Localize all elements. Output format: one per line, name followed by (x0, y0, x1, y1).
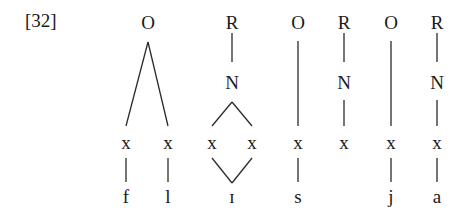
nucleus-node-1: N (225, 73, 239, 92)
segment-f: f (123, 187, 129, 206)
skeletal-slot-8: x (432, 133, 442, 152)
onset-node-1: O (141, 13, 155, 32)
skeletal-slot-4: x (247, 133, 257, 152)
skeletal-slot-7: x (386, 133, 396, 152)
nucleus-node-2: N (337, 73, 351, 92)
skeletal-slot-1: x (121, 133, 131, 152)
branch-o1-x2 (148, 42, 168, 126)
skeletal-slot-5: x (293, 133, 303, 152)
skeletal-slot-6: x (339, 133, 349, 152)
branch-n1-x4 (232, 102, 252, 126)
segment-long-vowel: ɪ (229, 187, 234, 206)
nucleus-node-3: N (430, 73, 444, 92)
segment-l: l (165, 187, 170, 206)
skeletal-slot-3: x (207, 133, 217, 152)
rhyme-node-3: R (431, 13, 444, 32)
branch-x4-seg (232, 158, 252, 183)
rhyme-node-2: R (338, 13, 351, 32)
branch-x3-seg (212, 158, 232, 183)
tree-branches (0, 0, 476, 217)
branch-n1-x3 (212, 102, 232, 126)
skeletal-slot-2: x (163, 133, 173, 152)
rhyme-node-1: R (226, 13, 239, 32)
segment-s: s (294, 187, 301, 206)
segment-j: j (388, 187, 393, 206)
segment-a: a (433, 187, 441, 206)
onset-node-3: O (384, 13, 398, 32)
onset-node-2: O (291, 13, 305, 32)
branch-o1-x1 (126, 42, 148, 126)
